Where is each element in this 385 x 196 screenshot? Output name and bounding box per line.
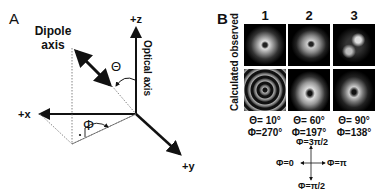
- theta-value-1: Θ= 10°: [242, 115, 288, 127]
- dipole-arrow: [76, 51, 110, 85]
- phi-symbol: Φ: [83, 117, 94, 133]
- column-1-params: Θ= 10° Φ=270°: [242, 115, 288, 139]
- phi-value-1: Φ=270°: [242, 127, 288, 139]
- observed-image-3: [333, 24, 375, 66]
- dipole-label-line1: Dipole: [33, 24, 73, 38]
- column-number-1: 1: [244, 8, 286, 23]
- column-2-params: Θ= 60° Φ=197°: [286, 115, 332, 139]
- dipole-axis-label: Dipole axis: [33, 24, 73, 52]
- dipole-label-line2: axis: [33, 38, 73, 52]
- y-axis: [136, 114, 180, 154]
- compass-top-label: Φ=3π/2: [296, 137, 328, 147]
- compass-right-label: Φ=π: [327, 158, 347, 168]
- y-axis-label: +y: [182, 160, 195, 172]
- row-labels: Calculated observed: [229, 13, 240, 111]
- observed-image-1: [244, 24, 286, 66]
- calculated-image-2: [288, 69, 330, 111]
- phi-value-3: Φ=138°: [331, 127, 377, 139]
- calculated-image-3: [333, 69, 375, 111]
- column-3-params: Θ= 90° Φ=138°: [331, 115, 377, 139]
- observed-image-2: [288, 24, 330, 66]
- z-axis-label: +z: [130, 13, 142, 25]
- column-number-2: 2: [288, 8, 330, 23]
- panel-b-label: B: [217, 10, 228, 27]
- calculated-image-1: [244, 69, 286, 111]
- x-axis-label: +x: [18, 108, 31, 120]
- theta-value-3: Θ= 90°: [331, 115, 377, 127]
- theta-symbol: Θ: [111, 59, 121, 74]
- theta-value-2: Θ= 60°: [286, 115, 332, 127]
- compass-bottom-label: Φ=π/2: [298, 181, 325, 191]
- column-number-3: 3: [333, 8, 375, 23]
- compass-left-label: Φ=0: [276, 158, 294, 168]
- optical-axis-label: Optical axis: [142, 40, 153, 96]
